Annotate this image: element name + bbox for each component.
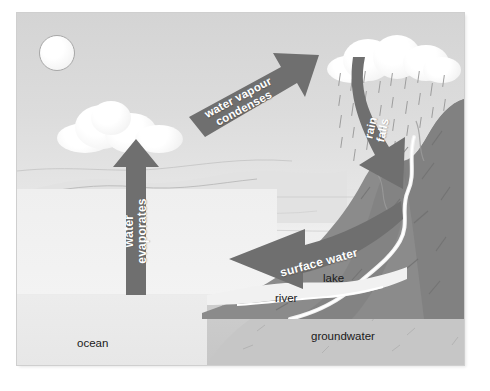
arrow-runoff: surface water	[223, 201, 403, 299]
label-river: river	[275, 292, 297, 304]
arrow-evaporation-line2: evaporates	[136, 198, 149, 263]
arrow-condensation: water vapour condenses	[185, 47, 325, 143]
water-cycle-diagram: water evaporates water vapour condenses …	[17, 13, 464, 365]
label-lake: lake	[323, 272, 344, 284]
label-ocean: ocean	[77, 337, 108, 349]
arrow-evaporation: water evaporates	[113, 139, 159, 295]
sun-icon	[39, 35, 75, 71]
label-groundwater: groundwater	[311, 330, 375, 342]
arrow-evaporation-line1: water	[123, 198, 136, 263]
arrow-precipitation: rain falls	[347, 55, 427, 195]
